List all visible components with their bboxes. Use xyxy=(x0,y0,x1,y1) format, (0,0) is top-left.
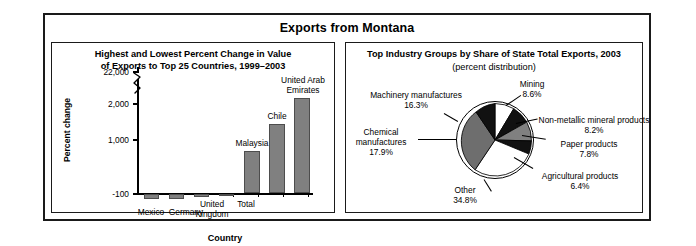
xtick-mark-5 xyxy=(258,193,259,197)
pie-label-paper-value: 7.8% xyxy=(579,149,598,159)
bar-label-chile: Chile xyxy=(252,112,302,122)
pie-label-nonmetallic-name: Non-metallic mineral products xyxy=(539,115,650,125)
ytick-mark-2000 xyxy=(133,103,137,105)
pie-label-non-metallic-mineral-products: Non-metallic mineral products 8.2% xyxy=(538,115,650,135)
pie-label-chemical-value: 17.9% xyxy=(369,147,393,157)
pie-svg xyxy=(457,102,533,178)
ytick-mark-neg100 xyxy=(133,193,137,195)
bar-label-uae-line2: Emirates xyxy=(286,85,319,95)
pie-label-agricultural-name: Agricultural products xyxy=(542,171,618,181)
pie-label-paper-products: Paper products 7.8% xyxy=(546,139,632,159)
bar-germany xyxy=(169,194,184,199)
xtick-mark-7 xyxy=(308,193,309,197)
panels-row: Highest and Lowest Percent Change in Val… xyxy=(51,42,643,213)
pie-label-other-value: 34.8% xyxy=(453,195,477,205)
pie-label-chemical-manufactures: Chemical manufactures 17.9% xyxy=(342,127,420,157)
pie-chart-title: Top Industry Groups by Share of State To… xyxy=(352,49,636,61)
pie-label-mining-name: Mining xyxy=(520,79,545,89)
pie-label-mining-value: 8.6% xyxy=(522,89,541,99)
cat-label-uk-line2: Kingdom xyxy=(195,209,228,219)
bar-mexico xyxy=(144,194,159,199)
bar-malaysia xyxy=(244,151,260,193)
pie-chart-panel: Top Industry Groups by Share of State To… xyxy=(345,42,643,213)
axis-break-icon xyxy=(131,72,145,94)
pie-label-agricultural-products: Agricultural products 6.4% xyxy=(530,171,630,191)
leader-line-machinery xyxy=(444,113,458,122)
pie-label-paper-name: Paper products xyxy=(561,139,618,149)
y-axis-line xyxy=(137,79,139,195)
bar-chart-title-line1: Highest and Lowest Percent Change in Val… xyxy=(95,49,292,59)
pie-chart-plot: Machinery manufactures 16.3% Mining 8.6%… xyxy=(346,73,648,219)
bar-label-uae: United Arab Emirates xyxy=(274,76,332,95)
ytick-mark-1000 xyxy=(133,139,137,141)
bar-chart-plot: Percent change 22,000 2,000 1,000 -100 xyxy=(52,69,336,219)
cat-label-uk-line1: United xyxy=(200,199,224,209)
pie-label-chemical-name: Chemical manufactures xyxy=(356,127,407,147)
pie-label-machinery-value: 16.3% xyxy=(404,100,428,110)
bar-united-kingdom xyxy=(194,194,209,197)
pie-label-mining: Mining 8.6% xyxy=(506,79,558,99)
figure-container: Exports from Montana Highest and Lowest … xyxy=(43,13,651,221)
bar-label-uae-line1: United Arab xyxy=(281,75,325,85)
bar-chart-panel: Highest and Lowest Percent Change in Val… xyxy=(51,42,335,213)
pie-label-other-name: Other xyxy=(455,185,476,195)
cat-label-united-kingdom: United Kingdom xyxy=(192,200,232,219)
cat-label-total: Total xyxy=(229,200,263,210)
ytick-neg100: -100 xyxy=(85,189,129,199)
ytick-22000: 22,000 xyxy=(85,67,129,77)
xtick-mark-6 xyxy=(283,193,284,197)
bar-total xyxy=(219,194,234,196)
leader-line-chemical xyxy=(418,139,456,140)
pie-label-machinery-name: Machinery manufactures xyxy=(370,90,462,100)
pie-label-agricultural-value: 6.4% xyxy=(570,181,589,191)
ytick-mark-22000 xyxy=(133,71,137,73)
figure-title: Exports from Montana xyxy=(45,21,649,35)
bar-label-malaysia: Malaysia xyxy=(224,139,280,149)
pie-label-machinery-manufactures: Machinery manufactures 16.3% xyxy=(364,90,468,110)
pie-graphic xyxy=(456,101,534,179)
pie-chart-subtitle: (percent distribution) xyxy=(346,62,642,73)
bar-chart-ylabel: Percent change xyxy=(62,94,72,166)
ytick-1000: 1,000 xyxy=(85,135,129,145)
ytick-2000: 2,000 xyxy=(85,99,129,109)
pie-label-other: Other 34.8% xyxy=(442,185,488,205)
bar-chart-xlabel: Country xyxy=(137,233,313,243)
bar-chile xyxy=(269,124,285,193)
pie-label-nonmetallic-value: 8.2% xyxy=(584,125,603,135)
